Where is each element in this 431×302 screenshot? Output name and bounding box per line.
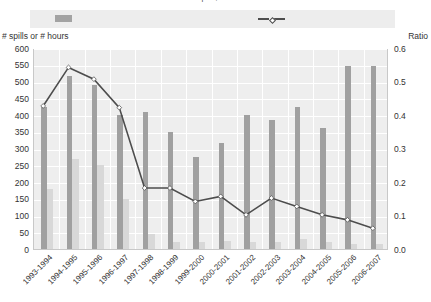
gridline-horizontal [34,116,387,117]
y-tick-label-right: 0.6 [394,44,406,54]
bar-hours [350,244,357,249]
gridline-vertical [110,50,111,249]
bar-spills [244,115,250,249]
bar-spills [92,85,98,249]
bar-hours [274,242,281,249]
bar-hours [224,241,231,249]
gridline-horizontal [34,200,387,201]
bar-hours [198,242,205,249]
bar-spills [67,76,73,249]
y-tick-label-left: 300 [0,144,29,154]
gridline-vertical [313,50,314,249]
y-tick-label-right: 0.2 [394,178,406,188]
gridline-horizontal [34,250,387,251]
y-axis-title-right: Ratio [408,31,428,41]
y-tick-label-left: 550 [0,60,29,70]
gridline-vertical [161,50,162,249]
y-tick-label-left: 150 [0,194,29,204]
chart-legend [30,10,395,28]
gridline-horizontal [34,233,387,234]
bar-spills [269,120,275,249]
bar-hours [173,242,180,249]
y-tick-label-right: 0.1 [394,211,406,221]
bar-hours [325,242,332,249]
bar-spills [168,132,174,249]
gridline-vertical [262,50,263,249]
gridline-horizontal [34,217,387,218]
bar-hours [300,239,307,249]
gridline-horizontal [34,83,387,84]
bar-spills [41,107,47,249]
gridline-horizontal [34,49,387,50]
y-axis-title-left: # spills or # hours [2,31,69,41]
bar-spills [193,157,199,249]
gridline-vertical [338,50,339,249]
chart-title-cutoff: Number of spills, hours and ratio [0,0,431,7]
bar-hours [148,234,155,249]
gridline-vertical [85,50,86,249]
chart-root: Number of spills, hours and ratio # spil… [0,0,431,302]
y-tick-label-left: 50 [0,228,29,238]
bar-spills [371,66,377,249]
y-tick-label-left: 600 [0,44,29,54]
y-tick-label-right: 0.5 [394,77,406,87]
gridline-vertical [237,50,238,249]
bar-hours [249,242,256,249]
gridline-vertical [135,50,136,249]
bar-hours [376,244,383,249]
gridline-horizontal [34,66,387,67]
bar-hours [122,199,129,249]
y-tick-label-left: 450 [0,94,29,104]
y-tick-label-left: 100 [0,211,29,221]
gridline-vertical [212,50,213,249]
chart-title-text: Number of spills, hours and ratio [0,0,431,2]
bar-hours [72,159,79,249]
bar-hours [46,189,53,249]
y-tick-label-left: 200 [0,178,29,188]
y-tick-label-left: 0 [0,245,29,255]
line-series-swatch [258,18,285,20]
y-tick-label-left: 400 [0,111,29,121]
y-tick-label-left: 350 [0,127,29,137]
plot-area [33,49,388,250]
bar-spills [143,112,149,249]
bar-spills [295,107,301,249]
bar-spills [117,115,123,249]
y-tick-label-right: 0.3 [394,144,406,154]
bar-spills [320,128,326,249]
bar-spills [219,143,225,249]
y-tick-label-left: 500 [0,77,29,87]
gridline-horizontal [34,133,387,134]
bar-hours [97,165,104,249]
gridline-vertical [59,50,60,249]
gridline-vertical [288,50,289,249]
bar-series-swatch [55,15,72,22]
y-tick-label-right: 0.0 [394,245,406,255]
gridline-horizontal [34,166,387,167]
gridline-horizontal [34,150,387,151]
y-tick-label-left: 250 [0,161,29,171]
gridline-vertical [186,50,187,249]
y-tick-label-right: 0.4 [394,111,406,121]
gridline-horizontal [34,99,387,100]
bar-spills [345,66,351,249]
gridline-horizontal [34,183,387,184]
gridline-vertical [364,50,365,249]
